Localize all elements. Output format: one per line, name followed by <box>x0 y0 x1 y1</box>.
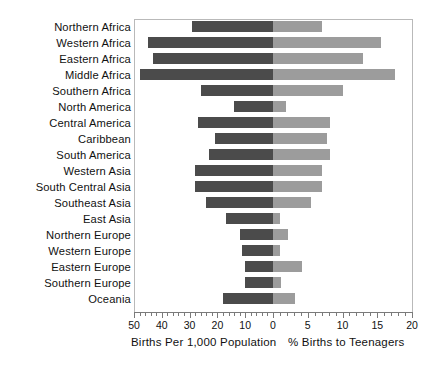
bar-pct-births-to-teenagers <box>273 245 280 257</box>
bar-pct-births-to-teenagers <box>273 149 330 161</box>
bar-row <box>134 261 413 273</box>
axis-tick-minor <box>201 313 202 316</box>
axis-tick-minor <box>195 313 196 316</box>
category-label: Northern Africa <box>0 21 131 33</box>
bar-births-per-1000 <box>226 213 273 225</box>
bar-pct-births-to-teenagers <box>273 37 381 49</box>
axis-tick-minor <box>301 313 302 316</box>
bar-births-per-1000 <box>234 101 273 113</box>
axis-tick-minor <box>280 313 281 316</box>
axis-tick-minor <box>287 313 288 316</box>
axis-tick-minor <box>267 313 268 316</box>
bar-row <box>134 37 413 49</box>
category-label: Northern Europe <box>0 229 131 241</box>
axis-tick-label: 20 <box>397 319 427 331</box>
axis-tick-minor <box>370 313 371 316</box>
axis-tick-label: 0 <box>258 319 288 331</box>
axis-tick-minor <box>405 313 406 316</box>
category-label: Western Europe <box>0 245 131 257</box>
bar-rows-layer <box>134 19 413 313</box>
axis-tick-minor <box>398 313 399 316</box>
axis-tick-minor <box>212 313 213 316</box>
category-axis-labels: Northern AfricaWestern AfricaEastern Afr… <box>0 20 131 312</box>
axis-tick-minor <box>294 313 295 316</box>
bar-row <box>134 101 413 113</box>
bar-pct-births-to-teenagers <box>273 117 330 129</box>
axis-tick-label: 10 <box>328 319 358 331</box>
axis-tick-minor <box>173 313 174 316</box>
bar-pct-births-to-teenagers <box>273 101 286 113</box>
axis-tick-major <box>377 313 378 318</box>
bar-row <box>134 85 413 97</box>
axis-tick-label: 30 <box>175 319 205 331</box>
left-axis-title: Births Per 1,000 Population <box>131 336 276 349</box>
category-label: Southern Africa <box>0 85 131 97</box>
category-label: Caribbean <box>0 133 131 145</box>
axis-tick-label: 20 <box>202 319 232 331</box>
category-label: East Asia <box>0 213 131 225</box>
bar-births-per-1000 <box>195 181 273 193</box>
axis-tick-minor <box>206 313 207 316</box>
axis-tick-minor <box>384 313 385 316</box>
bar-row <box>134 117 413 129</box>
category-label: Southern Europe <box>0 277 131 289</box>
bar-births-per-1000 <box>148 37 273 49</box>
bar-pct-births-to-teenagers <box>273 261 302 273</box>
bar-pct-births-to-teenagers <box>273 165 322 177</box>
category-label: North America <box>0 101 131 113</box>
bar-pct-births-to-teenagers <box>273 277 281 289</box>
axis-tick-minor <box>363 313 364 316</box>
bar-row <box>134 21 413 33</box>
bar-row <box>134 245 413 257</box>
axis-tick-minor <box>329 313 330 316</box>
category-label: South Central Asia <box>0 181 131 193</box>
bar-pct-births-to-teenagers <box>273 21 322 33</box>
axis-tick-minor <box>229 313 230 316</box>
category-label: Western Asia <box>0 165 131 177</box>
category-label: Oceania <box>0 293 131 305</box>
axis-tick-minor <box>315 313 316 316</box>
axis-tick-minor <box>156 313 157 316</box>
bar-births-per-1000 <box>192 21 273 33</box>
axis-tick-major <box>190 313 191 318</box>
bar-row <box>134 213 413 225</box>
bar-pct-births-to-teenagers <box>273 85 343 97</box>
axis-tick-minor <box>251 313 252 316</box>
category-label: South America <box>0 149 131 161</box>
axis-tick-major <box>343 313 344 318</box>
axis-tick-label: 10 <box>230 319 260 331</box>
bar-row <box>134 133 413 145</box>
bar-births-per-1000 <box>206 197 273 209</box>
axis-tick-minor <box>184 313 185 316</box>
axis-tick-label: 15 <box>362 319 392 331</box>
axis-tick-minor <box>349 313 350 316</box>
bar-row <box>134 197 413 209</box>
axis-tick-minor <box>223 313 224 316</box>
axis-tick-major <box>273 313 274 318</box>
bar-row <box>134 229 413 241</box>
axis-tick-minor <box>391 313 392 316</box>
axis-tick-minor <box>145 313 146 316</box>
bar-pct-births-to-teenagers <box>273 53 363 65</box>
bar-row <box>134 293 413 305</box>
category-label: Central America <box>0 117 131 129</box>
category-label: Eastern Europe <box>0 261 131 273</box>
axis-tick-minor <box>336 313 337 316</box>
bar-pct-births-to-teenagers <box>273 293 295 305</box>
axis-tick-major <box>412 313 413 318</box>
axis-tick-label: 5 <box>293 319 323 331</box>
axis-tick-major <box>308 313 309 318</box>
axis-tick-label: 40 <box>147 319 177 331</box>
axis-tick-label: 50 <box>119 319 149 331</box>
bar-row <box>134 277 413 289</box>
axis-tick-minor <box>256 313 257 316</box>
axis-tick-major <box>134 313 135 318</box>
category-label: Western Africa <box>0 37 131 49</box>
right-axis-title: % Births to Teenagers <box>288 336 405 349</box>
axis-tick-minor <box>240 313 241 316</box>
diverging-bar-chart: Northern AfricaWestern AfricaEastern Afr… <box>0 0 440 367</box>
bar-row <box>134 149 413 161</box>
axis-tick-minor <box>356 313 357 316</box>
bar-births-per-1000 <box>198 117 273 129</box>
bar-pct-births-to-teenagers <box>273 133 327 145</box>
